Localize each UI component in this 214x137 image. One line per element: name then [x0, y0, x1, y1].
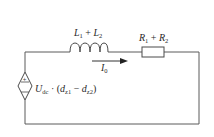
resistor-icon [142, 47, 164, 57]
resistor-label: R1 + R2 [138, 32, 168, 44]
source-label: Udc · (dz1 − dz2) [35, 83, 96, 95]
plus-sign: + [23, 76, 27, 82]
current-arrow-icon [92, 58, 128, 64]
inductor-icon [70, 43, 108, 52]
circuit-diagram: L1 + L2 R1 + R2 I0 + Udc · (dz1 − dz2) [0, 0, 214, 137]
wire-left-top [25, 52, 70, 72]
current-label: I0 [100, 62, 108, 74]
inductor-label: L1 + L2 [73, 27, 102, 39]
